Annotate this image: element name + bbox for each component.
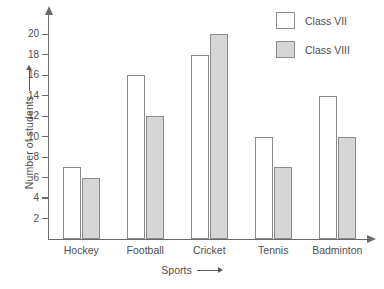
bar-hockey-class-viii: [82, 178, 100, 239]
bar-cricket-class-vii: [191, 55, 209, 239]
y-tick-label: 8: [17, 152, 39, 162]
y-tick-label: 20: [17, 29, 39, 39]
y-tick-label: 16: [17, 70, 39, 80]
right-arrow-icon: [197, 267, 223, 274]
bar-badminton-class-vii: [319, 96, 337, 239]
bar-hockey-class-vii: [63, 167, 81, 239]
bar-cricket-class-viii: [210, 34, 228, 239]
y-axis-label: Number of students: [21, 37, 37, 217]
bar-football-class-viii: [146, 116, 164, 239]
legend: Class VII Class VIII: [276, 12, 350, 70]
bar-football-class-vii: [127, 75, 145, 239]
y-tick-label: 18: [17, 50, 39, 60]
legend-label-class-vii: Class VII: [305, 15, 347, 27]
x-axis-arrow-icon: [367, 235, 376, 243]
y-tick-label: 4: [17, 193, 39, 203]
y-tick-label: 12: [17, 111, 39, 121]
legend-swatch-class-viii: [276, 41, 295, 58]
bar-chart: Number of students 2 4 6 8 10 12 14 16 1…: [0, 0, 384, 289]
y-tick-label: 6: [17, 173, 39, 183]
x-axis-label: Sports: [0, 264, 384, 276]
y-tick-label: 10: [17, 132, 39, 142]
bar-tennis-class-viii: [274, 167, 292, 239]
legend-item-class-vii: Class VII: [276, 12, 350, 29]
bar-badminton-class-viii: [338, 137, 356, 239]
x-category-label: Badminton: [297, 244, 377, 256]
y-tick-label: 14: [17, 91, 39, 101]
legend-swatch-class-vii: [276, 12, 295, 29]
legend-label-class-viii: Class VIII: [305, 44, 350, 56]
legend-item-class-viii: Class VIII: [276, 41, 350, 58]
y-tick-label: 2: [17, 214, 39, 224]
x-axis-label-text: Sports: [161, 264, 191, 276]
bar-tennis-class-vii: [255, 137, 273, 239]
